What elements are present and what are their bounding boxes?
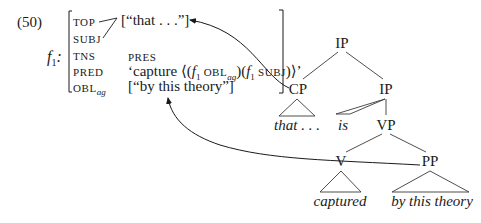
diagram-lines xyxy=(0,0,481,223)
structure-sharing-line xyxy=(99,18,117,38)
arrow-pp-to-obl xyxy=(168,98,420,165)
right-bracket xyxy=(279,10,283,93)
left-bracket xyxy=(69,11,72,92)
arrow-cp-to-top xyxy=(190,20,289,88)
